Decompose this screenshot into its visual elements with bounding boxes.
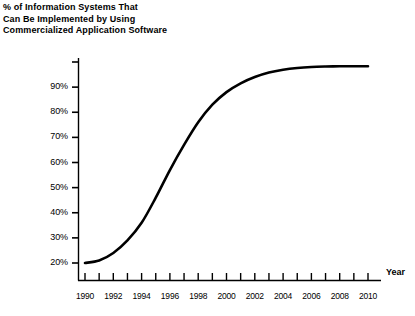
x-axis-tick-label: 1998 (183, 291, 213, 301)
y-axis-tick-label: 70% (34, 131, 68, 141)
x-axis-tick-label: 2010 (353, 291, 383, 301)
y-axis-tick-label: 90% (34, 81, 68, 91)
x-axis-tick-label: 2000 (212, 291, 242, 301)
y-axis-ticks (72, 62, 79, 263)
chart-figure: % of Information Systems That Can Be Imp… (0, 0, 415, 316)
x-axis-tick-label: 2004 (268, 291, 298, 301)
y-axis-tick-label: 60% (34, 157, 68, 167)
y-axis-tick-label: 40% (34, 207, 68, 217)
y-axis-tick-label: 80% (34, 106, 68, 116)
y-axis-tick-label: 20% (34, 257, 68, 267)
x-axis-tick-label: 1994 (127, 291, 157, 301)
x-axis-tick-label: 1990 (70, 291, 100, 301)
x-axis-title: Year (386, 267, 405, 277)
x-axis-ticks (85, 273, 368, 281)
y-axis-tick-label: 30% (34, 232, 68, 242)
x-axis-tick-label: 1992 (98, 291, 128, 301)
x-axis-tick-label: 2002 (240, 291, 270, 301)
data-series-line (85, 66, 368, 263)
x-axis-tick-label: 1996 (155, 291, 185, 301)
x-axis-tick-label: 2006 (296, 291, 326, 301)
x-axis-tick-label: 2008 (325, 291, 355, 301)
y-axis-tick-label: 50% (34, 182, 68, 192)
